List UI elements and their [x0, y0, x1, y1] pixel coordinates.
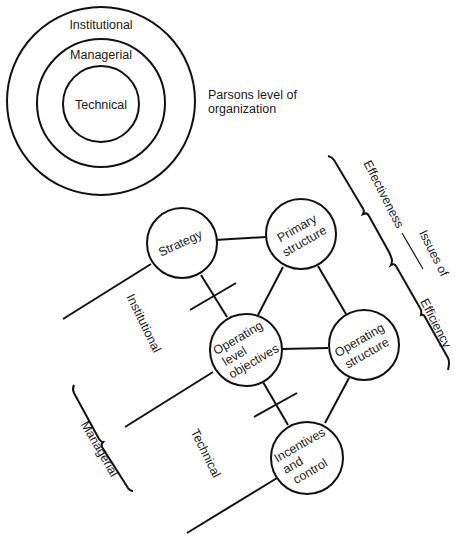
- edge-olo-opstruct: [281, 348, 328, 349]
- ring-label-institutional: Institutional: [69, 18, 132, 32]
- boundary-tick-managerial: [254, 393, 297, 417]
- node-strategy: Strategy: [147, 208, 217, 278]
- node-operating-level-objectives: Operating level objectives: [210, 314, 282, 386]
- edge-primary-opstruct: [318, 266, 346, 314]
- level-label-institutional: Institutional: [123, 292, 163, 355]
- level-label-managerial: Managerial: [78, 419, 121, 480]
- organization-levels-diagram: Institutional Managerial Technical Parso…: [0, 0, 458, 543]
- issue-label-issues-of: Issues of: [416, 228, 451, 279]
- issue-label-efficiency: Efficiency: [417, 296, 454, 350]
- divider-technical-bottom: [187, 478, 277, 533]
- node-primary-structure: Primary structure: [266, 199, 336, 269]
- ring-label-technical: Technical: [75, 98, 127, 112]
- edge-opstruct-incentives: [325, 378, 349, 423]
- node-operating-structure: Operating structure: [329, 310, 399, 380]
- boundary-tick-institutional: [190, 283, 236, 310]
- issue-label-effectiveness: Effectiveness: [361, 158, 407, 230]
- parsons-caption-line2: organization: [208, 102, 276, 116]
- divider-institutional-bottom: [125, 372, 213, 427]
- node-incentives-control: Incentives and control: [271, 422, 343, 494]
- level-label-technical: Technical: [188, 427, 223, 480]
- edge-olo-incentives: [263, 382, 288, 425]
- parsons-rings: Institutional Managerial Technical: [7, 7, 195, 195]
- parsons-caption-line1: Parsons level of: [208, 88, 297, 102]
- ring-label-managerial: Managerial: [70, 48, 132, 62]
- edge-strategy-primary: [215, 237, 266, 240]
- edge-primary-olo: [258, 267, 283, 315]
- managerial-brace: [73, 385, 133, 491]
